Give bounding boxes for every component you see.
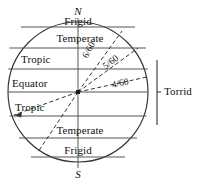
zone-label-tropic-north: Tropic (21, 54, 51, 65)
zone-label-temperate-south: Temperate (56, 125, 103, 136)
zone-label-torrid: Torrid (164, 86, 192, 97)
zone-label-equator: Equator (12, 78, 48, 89)
globe-center-point (76, 90, 80, 94)
climatic-zones-diagram: N Frigid Temperate Tropic Equator Tropic… (0, 0, 198, 187)
zone-label-tropic-south: Tropic (15, 102, 45, 113)
zone-label-temperate-north: Temperate (56, 33, 103, 44)
zone-label-frigid-north: Frigid (64, 16, 92, 27)
south-pole-label: S (75, 169, 81, 180)
zone-label-frigid-south: Frigid (64, 145, 92, 156)
radial-ray-arrowhead (14, 113, 22, 118)
